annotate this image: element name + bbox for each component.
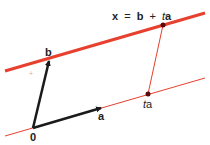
label-a: a <box>98 110 105 122</box>
equation-label: x = b + ta <box>112 10 172 22</box>
label-b: b <box>45 46 52 58</box>
vector-line-diagram: x = b + ta b a 0 ta + <box>0 0 210 145</box>
vector-a <box>33 108 101 128</box>
vector-b <box>33 61 49 128</box>
label-ta: ta <box>143 98 153 110</box>
line-through-b <box>5 13 205 71</box>
label-origin: 0 <box>30 131 36 143</box>
point-x <box>161 23 166 28</box>
segment-ta-to-x <box>148 25 163 94</box>
point-ta <box>146 92 151 97</box>
plus-mark: + <box>29 70 33 77</box>
